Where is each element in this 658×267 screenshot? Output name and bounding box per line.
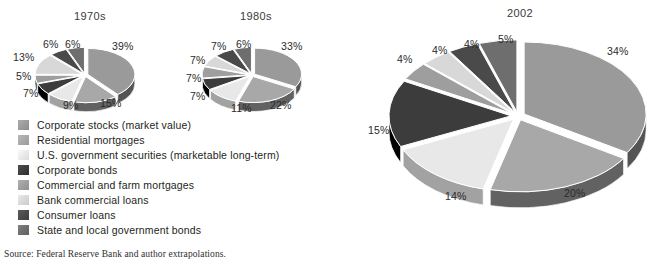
legend-label: U.S. government securities (marketable l… — [37, 149, 280, 161]
legend-swatch-icon — [18, 135, 29, 145]
legend-label: State and local government bonds — [37, 224, 201, 236]
legend-item: Bank commercial loans — [18, 192, 280, 207]
legend-swatch-icon — [18, 195, 29, 205]
legend-label: Commercial and farm mortgages — [37, 179, 194, 191]
legend-swatch-icon — [18, 210, 29, 220]
pie-slice-label: 14% — [445, 190, 467, 202]
pie-slice-label: 20% — [564, 187, 586, 199]
pie-slice-label: 4% — [432, 44, 448, 56]
legend-item: Commercial and farm mortgages — [18, 177, 280, 192]
legend-label: Corporate bonds — [37, 164, 117, 176]
legend-swatch-icon — [18, 180, 29, 190]
pie-slice-label: 4% — [464, 38, 480, 50]
legend-item: State and local government bonds — [18, 222, 280, 237]
legend-item: U.S. government securities (marketable l… — [18, 147, 280, 162]
pie-slice-label: 4% — [397, 53, 413, 65]
legend-swatch-icon — [18, 165, 29, 175]
pie-slice-label: 5% — [498, 33, 514, 45]
source-note: Source: Federal Reserve Bank and author … — [4, 249, 226, 259]
legend-swatch-icon — [18, 150, 29, 160]
legend-item: Corporate bonds — [18, 162, 280, 177]
pie-slice-label: 15% — [368, 124, 390, 136]
legend-swatch-icon — [18, 120, 29, 130]
legend: Corporate stocks (market value)Residenti… — [18, 117, 280, 237]
legend-label: Bank commercial loans — [37, 194, 149, 206]
legend-label: Residential mortgages — [37, 134, 145, 146]
pie-slice-label: 34% — [607, 45, 629, 57]
legend-item: Residential mortgages — [18, 132, 280, 147]
legend-label: Corporate stocks (market value) — [37, 119, 191, 131]
legend-swatch-icon — [18, 225, 29, 235]
legend-label: Consumer loans — [37, 209, 116, 221]
legend-item: Corporate stocks (market value) — [18, 117, 280, 132]
legend-item: Consumer loans — [18, 207, 280, 222]
